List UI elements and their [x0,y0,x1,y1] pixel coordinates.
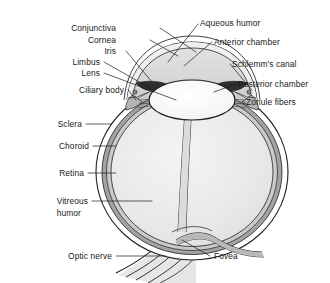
label-conjunctiva: Conjunctiva [71,23,116,33]
label-posterior-chamber: Posterior chamber [238,79,308,89]
lens-body [149,80,235,120]
label-sclera: Sclera [58,119,83,129]
label-retina: Retina [59,168,84,178]
schlemms-canal-left [133,90,137,94]
label-choroid: Choroid [59,141,89,151]
label-vitreous: Vitreous [57,196,88,206]
label-cornea: Cornea [88,35,116,45]
schlemms-canal-right [247,90,251,94]
label-lens: Lens [81,68,100,78]
label-iris: Iris [104,46,116,56]
label-aqueous-humor: Aqueous humor [200,18,261,28]
eye-cross-section-illustration: Conjunctiva Cornea Iris Limbus Lens Cili… [0,0,330,283]
label-fovea: Fovea [214,251,238,261]
label-group-left-upper: Conjunctiva Cornea Iris Limbus Lens Cili… [71,23,125,95]
label-zonule-fibers: Zonule fibers [246,97,296,107]
eye-diagram-figure: Conjunctiva Cornea Iris Limbus Lens Cili… [0,0,330,283]
label-limbus: Limbus [72,57,100,67]
label-vitreous-humor-second-line: humor [57,208,81,218]
label-anterior-chamber: Anterior chamber [214,37,280,47]
label-schlemms-canal: Schlemm's canal [232,59,297,69]
label-ciliary-body: Ciliary body [79,85,125,95]
label-optic-nerve: Optic nerve [68,251,112,261]
